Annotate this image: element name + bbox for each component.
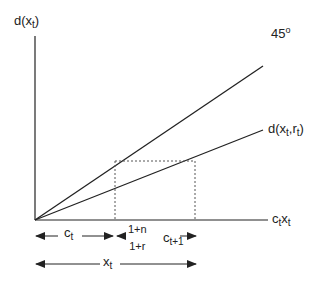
- y-axis-label: d(xt): [14, 14, 39, 30]
- line-45-label: 45o: [271, 26, 290, 40]
- diagram-canvas: [0, 0, 320, 284]
- segment-c-t-label: ct: [64, 226, 73, 242]
- segment-c-t1-label: ct+1: [163, 231, 184, 247]
- line-d-label: d(xt,rt): [268, 122, 304, 138]
- fraction-label: 1+n1+r: [128, 224, 147, 252]
- segment-x-t-label: xt: [103, 255, 112, 271]
- x-axis-label: ctxt: [272, 212, 291, 228]
